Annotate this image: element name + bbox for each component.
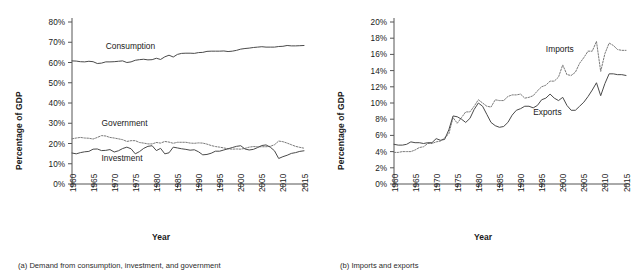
y-tick-label: 10% <box>371 99 387 108</box>
y-tick-label: 10% <box>49 160 65 169</box>
y-tick-label: 30% <box>49 119 65 128</box>
x-tick-label: 2000 <box>559 173 568 192</box>
y-tick-label: 50% <box>49 79 65 88</box>
panel-b: Percentage of GDP 0%2%4%6%8%10%12%14%16%… <box>322 0 644 274</box>
y-tick-label: 20% <box>49 140 65 149</box>
y-tick-label: 14% <box>371 67 387 76</box>
y-tick-label: 20% <box>371 18 387 27</box>
y-tick-label: 4% <box>375 148 387 157</box>
x-tick-label: 2005 <box>258 173 267 192</box>
x-tick-label: 1965 <box>412 173 421 192</box>
x-tick-label: 1975 <box>132 173 141 192</box>
y-tick-label: 16% <box>371 50 387 59</box>
x-tick-label: 1960 <box>69 173 78 192</box>
x-tick-label: 1990 <box>195 173 204 192</box>
x-tick-label: 2015 <box>301 173 310 192</box>
panel-a: Percentage of GDP 0%10%20%30%40%50%60%70… <box>0 0 322 274</box>
series-annotation: Exports <box>533 107 561 117</box>
x-tick-label: 1980 <box>153 173 162 192</box>
panel-b-plot: 0%2%4%6%8%10%12%14%16%18%20%196019651970… <box>322 0 644 200</box>
x-tick-label: 1995 <box>538 173 547 192</box>
x-tick-label: 2005 <box>580 173 589 192</box>
x-tick-label: 1970 <box>433 173 442 192</box>
y-tick-label: 70% <box>49 38 65 47</box>
panel-a-x-axis-label: Year <box>0 232 322 242</box>
x-tick-label: 1985 <box>174 173 183 192</box>
x-tick-label: 1975 <box>454 173 463 192</box>
x-tick-label: 2010 <box>279 173 288 192</box>
x-tick-label: 1960 <box>391 173 400 192</box>
y-tick-label: 18% <box>371 34 387 43</box>
x-tick-label: 1970 <box>111 173 120 192</box>
x-tick-label: 1980 <box>475 173 484 192</box>
x-tick-label: 1985 <box>496 173 505 192</box>
x-tick-label: 2015 <box>623 173 632 192</box>
panel-b-caption: (b) Imports and exports <box>340 261 419 270</box>
panel-a-plot: 0%10%20%30%40%50%60%70%80%19601965197019… <box>0 0 322 200</box>
x-tick-label: 1995 <box>216 173 225 192</box>
series-annotation: Consumption <box>106 41 156 51</box>
figure-container: Percentage of GDP 0%10%20%30%40%50%60%70… <box>0 0 644 274</box>
series-annotation: Imports <box>546 44 574 54</box>
y-tick-label: 2% <box>375 164 387 173</box>
y-tick-label: 8% <box>375 115 387 124</box>
x-tick-label: 2000 <box>237 173 246 192</box>
y-tick-label: 12% <box>371 83 387 92</box>
y-tick-label: 6% <box>375 131 387 140</box>
panel-b-x-axis-label: Year <box>322 232 644 242</box>
y-tick-label: 0% <box>375 180 387 189</box>
y-tick-label: 60% <box>49 59 65 68</box>
x-tick-label: 1965 <box>90 173 99 192</box>
y-tick-label: 0% <box>53 180 65 189</box>
x-tick-label: 1990 <box>517 173 526 192</box>
series-annotation: Investment <box>102 153 144 163</box>
y-tick-label: 40% <box>49 99 65 108</box>
y-tick-label: 80% <box>49 18 65 27</box>
series-line-exports <box>394 74 626 145</box>
x-tick-label: 2010 <box>601 173 610 192</box>
series-line-imports <box>394 41 626 152</box>
series-annotation: Government <box>102 118 149 128</box>
panel-a-caption: (a) Demand from consumption, investment,… <box>18 261 221 270</box>
